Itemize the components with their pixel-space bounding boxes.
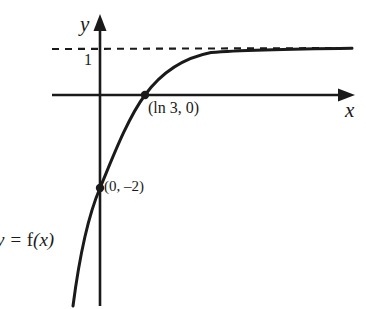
point-marker-ln3 bbox=[141, 91, 149, 99]
x-axis-label: x bbox=[345, 100, 354, 121]
point-label-y-intercept: (0, –2) bbox=[104, 179, 144, 194]
y-axis-label: y bbox=[80, 14, 89, 35]
function-label: y = f(x) bbox=[0, 230, 54, 249]
function-label-argument: (x) bbox=[33, 229, 54, 250]
y-axis-arrowhead bbox=[94, 14, 107, 31]
y-axis-tick-label-1: 1 bbox=[84, 52, 92, 68]
function-label-prefix: y = bbox=[0, 229, 27, 250]
point-marker-y-intercept bbox=[96, 184, 104, 192]
point-label-x-intercept: (ln 3, 0) bbox=[148, 100, 199, 116]
graph-figure: y x 1 (ln 3, 0) (0, –2) y = f(x) bbox=[0, 0, 366, 309]
graph-canvas bbox=[0, 0, 366, 309]
